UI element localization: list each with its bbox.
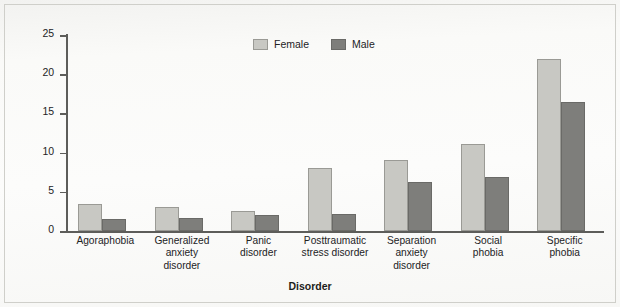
bar-group xyxy=(220,35,297,231)
chart-figure: 0510152025 Rate (%) AgoraphobiaGeneraliz… xyxy=(0,0,620,307)
x-axis-label: Disorder xyxy=(5,280,615,292)
legend-swatch-icon xyxy=(331,39,346,50)
legend-swatch-icon xyxy=(253,39,268,50)
x-axis-line xyxy=(66,231,604,233)
bar-group xyxy=(144,35,221,231)
x-axis-tick-label-line: disorder xyxy=(360,260,464,272)
bar-female[interactable] xyxy=(537,59,561,231)
x-axis-tick-label-line: phobia xyxy=(513,247,617,259)
legend-item[interactable]: Female xyxy=(253,38,309,50)
bar-female[interactable] xyxy=(384,160,408,231)
y-axis-tick-label: 15 xyxy=(43,105,54,117)
bar-male[interactable] xyxy=(102,219,126,231)
bar-group xyxy=(450,35,527,231)
bar-male[interactable] xyxy=(485,177,509,231)
y-axis-tick-mark xyxy=(60,192,67,194)
bar-male[interactable] xyxy=(561,102,585,231)
y-axis-tick-mark xyxy=(60,113,67,115)
y-axis-tick-mark xyxy=(60,35,67,37)
y-axis-tick-mark xyxy=(60,74,67,76)
x-axis-tick-label-line: disorder xyxy=(130,260,234,272)
bar-male[interactable] xyxy=(332,214,356,231)
y-axis-tick-mark xyxy=(60,153,67,155)
bar-male[interactable] xyxy=(255,215,279,231)
legend-label: Female xyxy=(274,38,309,50)
bar-female[interactable] xyxy=(78,204,102,231)
bar-male[interactable] xyxy=(408,182,432,231)
y-axis-tick-label: 10 xyxy=(43,145,54,157)
y-axis-tick-label: 25 xyxy=(43,27,54,39)
bar-female[interactable] xyxy=(461,144,485,231)
legend-item[interactable]: Male xyxy=(331,38,375,50)
bar-female[interactable] xyxy=(231,211,255,231)
bar-male[interactable] xyxy=(179,218,203,231)
legend-label: Male xyxy=(352,38,375,50)
x-axis-tick-label-line: Specific xyxy=(513,235,617,247)
bar-female[interactable] xyxy=(308,168,332,231)
bar-group xyxy=(526,35,603,231)
bar-group xyxy=(67,35,144,231)
bar-group xyxy=(297,35,374,231)
bar-group xyxy=(373,35,450,231)
y-axis-tick-label: 5 xyxy=(48,184,54,196)
figure-frame: 0510152025 Rate (%) AgoraphobiaGeneraliz… xyxy=(4,4,616,303)
y-axis-tick-mark xyxy=(60,231,67,233)
bar-groups xyxy=(67,35,603,231)
chart-legend: FemaleMale xyxy=(253,38,375,50)
y-axis-tick-label: 20 xyxy=(43,66,54,78)
bar-female[interactable] xyxy=(155,207,179,231)
x-axis-tick-label: Specificphobia xyxy=(513,235,617,260)
y-axis-tick-label: 0 xyxy=(48,223,54,235)
